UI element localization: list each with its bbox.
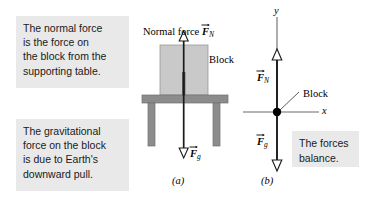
gravity-force-label-b: Fg xyxy=(257,136,268,149)
block-particle-dot xyxy=(273,108,281,116)
panel-a-caption: (a) xyxy=(172,175,184,186)
normal-force-label-b: FN xyxy=(257,72,269,85)
block-label-a: Block xyxy=(209,54,234,65)
force-subscript: N xyxy=(264,76,269,85)
normal-force-label-a: Normal force FN xyxy=(143,26,214,39)
normal-force-arrowhead-b xyxy=(272,49,282,60)
gravity-force-label-a: Fg xyxy=(190,148,201,161)
gravity-arrowhead-b xyxy=(272,160,282,171)
table-leg-right xyxy=(213,103,220,146)
force-letter: F xyxy=(257,72,264,83)
block-label-b: Block xyxy=(303,88,328,99)
gravity-callout: The gravitational force on the block is … xyxy=(16,119,129,191)
force-subscript: N xyxy=(209,30,214,39)
x-axis-label: x xyxy=(322,105,327,116)
panel-b-caption: (b) xyxy=(261,175,273,186)
normal-force-label-text: Normal force xyxy=(143,26,202,37)
table-leg-left xyxy=(148,103,155,146)
normal-force-vector-symbol-a: FN xyxy=(202,26,214,39)
block-leader-line-b xyxy=(280,92,299,110)
force-subscript: g xyxy=(197,152,201,161)
force-subscript: g xyxy=(264,140,268,149)
balance-callout: The forces balance. xyxy=(292,131,359,167)
force-letter: F xyxy=(202,26,209,37)
normal-force-vector-symbol-b: FN xyxy=(257,72,269,85)
table-top-shape xyxy=(142,95,228,103)
gravity-arrowhead-a xyxy=(179,148,188,158)
gravity-vector-symbol-a: Fg xyxy=(190,148,201,161)
y-axis-label: y xyxy=(274,5,279,16)
gravity-vector-symbol-b: Fg xyxy=(257,136,268,149)
force-letter: F xyxy=(257,136,264,147)
physics-figure: The normal force is the force on the blo… xyxy=(0,0,369,203)
force-letter: F xyxy=(190,148,197,159)
panel-a-graphics xyxy=(142,31,228,158)
normal-force-callout: The normal force is the force on the blo… xyxy=(16,16,129,88)
